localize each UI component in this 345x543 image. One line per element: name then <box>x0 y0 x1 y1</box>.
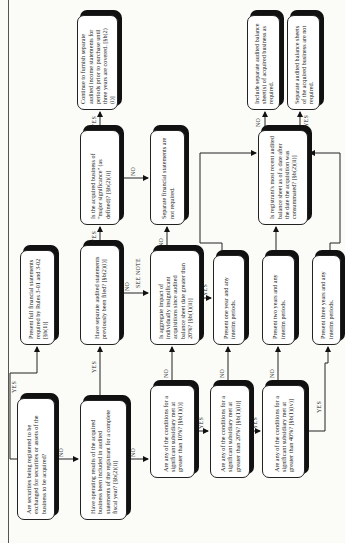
node-continue-furnish: Continue to furnish separate audited inc… <box>77 15 118 110</box>
node-q-10-percent: Are any of the conditions for a signific… <box>150 385 195 478</box>
edge-label-q6-no: NO <box>163 369 169 378</box>
node-sep-not-required: Separate financial statements are not re… <box>150 130 185 225</box>
node-text: Have operating results of the acquired b… <box>89 406 118 514</box>
edge-label-q4-yes: YES <box>91 116 97 128</box>
node-text: Is registrant's most recent audited bala… <box>268 136 297 219</box>
node-q-registrant-balance-sheet: Is registrant's most recent audited bala… <box>258 130 308 225</box>
node-q-40-percent: Are any of the conditions for a signific… <box>262 385 305 478</box>
node-present-one-year: Present one year and any interim periods… <box>213 255 245 345</box>
edge-label-q2-no: NO <box>130 448 136 457</box>
flowchart-canvas: Are securities being registered to be ex… <box>0 0 345 543</box>
node-q-operating: Have operating results of the acquired b… <box>80 400 127 520</box>
node-present-three-years: Present three years and any interim peri… <box>312 255 341 345</box>
node-text: Are any of the conditions for a signific… <box>219 391 241 472</box>
node-q-major: Is the acquired business of "major signi… <box>80 130 120 225</box>
node-present-full: Present full financial statements requir… <box>20 250 55 345</box>
node-q-exchange: Are securities being registered to be ex… <box>17 398 55 520</box>
node-text: Present two years and any interim period… <box>271 261 286 339</box>
edge-label-q5-no: NO <box>158 238 164 247</box>
edge-label-q5-yes: YES <box>202 284 208 296</box>
edge-label-q4-no: NO <box>130 167 136 176</box>
edge-label-q9-no: NO <box>255 118 261 127</box>
edge-label-q3-no: NO <box>124 282 130 291</box>
edge-label-q3-yes: YES <box>91 231 97 243</box>
edge-label-q9-yes: YES <box>303 115 309 127</box>
node-q-aggregate: Is aggregate impact of individually insi… <box>150 250 200 345</box>
node-text: Are any of the conditions for a signific… <box>273 391 295 472</box>
edge-label-q7-yes: YES <box>252 417 258 429</box>
node-text: Separate audited balance sheets of the a… <box>293 21 315 104</box>
node-text: Continue to furnish separate audited inc… <box>79 21 115 104</box>
node-balance-sheet-not-required: Separate audited balance sheets of the a… <box>287 15 320 110</box>
node-q-20-percent: Are any of the conditions for a signific… <box>210 385 250 478</box>
node-present-two-years: Present two years and any interim period… <box>262 255 295 345</box>
edge-label-q6-yes: YES <box>198 417 204 429</box>
node-include-balance-sheet: Include separate audited balance sheet(s… <box>247 15 280 110</box>
edge-label-q8-yes: YES <box>316 401 322 413</box>
node-text: Is the acquired business of "major signi… <box>89 136 111 219</box>
edge-label-q7-no: NO <box>219 369 225 378</box>
node-text: Have separate audited statements previou… <box>93 251 108 339</box>
edge-label-q8-no: NO <box>269 369 275 378</box>
edge-label-q1-no: NO <box>58 448 64 457</box>
node-text: Present one year and any interim periods… <box>222 261 237 339</box>
edge-label-see-note: SEE NOTE <box>135 258 141 288</box>
edge-label-q2-yes: YES <box>91 361 97 373</box>
node-text: Present full financial statements requir… <box>27 256 49 339</box>
node-q-separate-filed: Have separate audited statements previou… <box>80 245 120 345</box>
node-text: Are any of the conditions for a signific… <box>162 391 184 472</box>
node-text: Include separate audited balance sheet(s… <box>253 21 275 104</box>
node-text: Separate financial statements are not re… <box>160 136 175 219</box>
node-text: Is aggregate impact of individually insi… <box>157 256 193 339</box>
node-text: Are securities being registered to be ex… <box>25 404 47 514</box>
node-text: Present three years and any interim peri… <box>319 261 334 339</box>
edge-label-q1-yes: YES <box>11 381 17 393</box>
